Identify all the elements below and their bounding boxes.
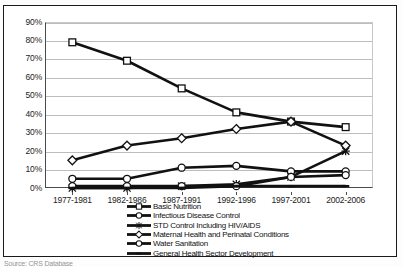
y-axis-tick-label: 40% (6, 110, 42, 119)
legend-label: General Health Sector Development (153, 249, 273, 258)
data-point (178, 85, 185, 92)
y-axis-tick-label: 30% (6, 128, 42, 137)
legend-marker-icon (126, 249, 152, 258)
x-axis-tickmark (72, 192, 73, 195)
x-axis-tickmark (182, 192, 183, 195)
data-point (342, 124, 349, 131)
legend-item[interactable]: Infectious Disease Control (126, 211, 376, 220)
legend-item[interactable]: Water Sanitation (126, 239, 376, 248)
data-point (69, 175, 76, 182)
x-axis-tickmark (236, 192, 237, 195)
data-point (177, 134, 186, 143)
legend-item[interactable]: Maternal Health and Perinatal Conditions (126, 230, 376, 239)
y-axis-tick-label: 90% (6, 18, 42, 27)
data-point (69, 39, 76, 46)
series-layer (45, 22, 373, 188)
chart-legend: Basic NutritionInfectious Disease Contro… (126, 202, 376, 258)
y-axis-tick-label: 0% (6, 184, 42, 193)
series-line (72, 151, 345, 188)
legend-label: Infectious Disease Control (153, 211, 240, 220)
data-point (178, 164, 185, 171)
chart-frame: 90%80%70%60%50%40%30%20%10%0% 1977-19811… (3, 5, 397, 257)
legend-marker-icon (126, 202, 152, 211)
series-0 (69, 39, 349, 131)
data-point (232, 125, 241, 134)
legend-marker-icon (126, 221, 152, 230)
legend-item[interactable]: STD Control Including HIV/AIDS (126, 221, 376, 230)
source-caption: Source: CRS Database (4, 260, 73, 267)
y-axis-tick-label: 50% (6, 91, 42, 100)
y-axis-tick-label: 70% (6, 54, 42, 63)
legend-item[interactable]: Basic Nutrition (126, 202, 376, 211)
x-axis-tick-label: 1977-1981 (46, 195, 98, 205)
x-axis-tickmark (346, 192, 347, 195)
data-point (288, 173, 295, 180)
data-point (233, 162, 240, 169)
data-point (124, 175, 131, 182)
legend-marker-icon (126, 211, 152, 220)
y-axis-tick-label: 20% (6, 147, 42, 156)
legend-label: Water Sanitation (153, 239, 208, 248)
scanned-page: 90%80%70%60%50%40%30%20%10%0% 1977-19811… (0, 0, 403, 267)
series-line (72, 122, 345, 161)
legend-item[interactable]: General Health Sector Development (126, 248, 376, 257)
legend-label: STD Control Including HIV/AIDS (153, 221, 260, 230)
legend-marker-icon (126, 230, 152, 239)
x-axis-tickmark (127, 192, 128, 195)
x-axis-tickmark (291, 192, 292, 195)
series-line (72, 42, 345, 127)
data-point (342, 172, 349, 179)
y-axis-tick-label: 80% (6, 36, 42, 45)
data-point (124, 57, 131, 64)
y-axis-tick-label: 10% (6, 165, 42, 174)
data-point (233, 109, 240, 116)
y-axis-tick-label: 60% (6, 73, 42, 82)
legend-marker-icon (126, 239, 152, 248)
data-point (123, 141, 132, 150)
data-point (68, 156, 77, 165)
legend-label: Basic Nutrition (153, 202, 201, 211)
legend-label: Maternal Health and Perinatal Conditions (153, 230, 289, 239)
series-1 (69, 162, 349, 182)
y-axis: 90%80%70%60%50%40%30%20%10%0% (4, 22, 42, 189)
